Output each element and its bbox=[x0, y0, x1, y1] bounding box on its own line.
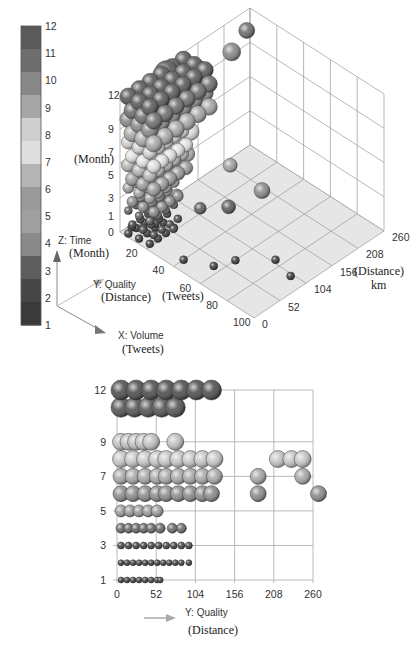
colorbar-tick: 7 bbox=[45, 156, 51, 168]
y-tick-label: 12 bbox=[94, 384, 106, 396]
bubble-shade bbox=[250, 486, 266, 502]
bubble-shade bbox=[231, 256, 239, 264]
bubble-shade bbox=[172, 560, 178, 566]
bubble-shade bbox=[158, 226, 166, 234]
colorbar-segment bbox=[21, 164, 41, 188]
y-tick-label: 104 bbox=[314, 283, 332, 295]
z-tick-label: 5 bbox=[108, 169, 114, 181]
bubble-shade bbox=[151, 505, 163, 517]
bubble-shade bbox=[174, 215, 182, 223]
colorbar-tick: 6 bbox=[45, 183, 51, 195]
bubble-shade bbox=[222, 200, 236, 214]
colorbar-segment bbox=[21, 210, 41, 234]
bubble-shade bbox=[130, 560, 136, 566]
x-tick-label: 100 bbox=[233, 316, 251, 328]
triad-z-name: Z: Time bbox=[58, 235, 92, 246]
bubble-shade bbox=[170, 225, 178, 233]
bubble-shade bbox=[167, 433, 184, 450]
x-axis-bottom-label: (Tweets) bbox=[162, 289, 204, 303]
y-tick-label: 52 bbox=[288, 301, 300, 313]
colorbar-tick: 12 bbox=[45, 20, 57, 32]
3d-bubble-chart: 1297531020406080100052104156208260 bbox=[108, 8, 410, 330]
bubble-shade bbox=[223, 43, 241, 61]
bubble-shade bbox=[148, 207, 159, 218]
bubble-shade bbox=[165, 397, 185, 417]
bubble-shade bbox=[294, 451, 311, 468]
bubble-shade bbox=[154, 560, 160, 566]
x-tick-label: 52 bbox=[150, 588, 162, 600]
bubble-shade bbox=[145, 112, 162, 129]
bubble-shade bbox=[148, 542, 155, 549]
bubble-shade bbox=[170, 542, 177, 549]
triad-x-line bbox=[57, 306, 100, 330]
colorbar-tick: 11 bbox=[45, 47, 56, 59]
z-tick-label: 9 bbox=[108, 123, 114, 135]
y-tick-label: 1 bbox=[100, 574, 106, 586]
bubble-shade bbox=[155, 542, 162, 549]
colorbar-segment bbox=[21, 49, 41, 73]
colorbar-legend bbox=[21, 26, 41, 326]
y-axis-right-unit: km bbox=[371, 278, 387, 292]
colorbar-tick: 5 bbox=[45, 210, 51, 222]
bubble-shade bbox=[143, 433, 160, 450]
x-tick-label: 208 bbox=[265, 588, 283, 600]
colorbar-tick: 8 bbox=[45, 129, 51, 141]
z-tick-label: 12 bbox=[108, 89, 120, 101]
bubble-shade bbox=[272, 256, 280, 264]
x-tick-label: 20 bbox=[126, 247, 138, 259]
bubble-shade bbox=[146, 217, 154, 225]
bubble-shade bbox=[147, 159, 161, 173]
bubble-shade bbox=[160, 560, 166, 566]
colorbar-tick: 9 bbox=[45, 102, 51, 114]
colorbar-tick: 4 bbox=[45, 237, 51, 249]
colorbar-segment bbox=[21, 26, 41, 50]
bubble-shade bbox=[146, 523, 156, 533]
bubble-shade bbox=[254, 183, 270, 199]
bubble-shade bbox=[223, 158, 237, 172]
bubble-shade bbox=[201, 380, 221, 400]
y-tick-label: 3 bbox=[100, 539, 106, 551]
bubble-shade bbox=[118, 577, 124, 583]
z-tick-label: 0 bbox=[108, 226, 114, 238]
colorbar-tick: 1 bbox=[45, 319, 51, 331]
colorbar-tick: 2 bbox=[45, 292, 51, 304]
chart-canvas: 121110987654321 129753102040608010005210… bbox=[0, 0, 413, 652]
triad-y-name: Y: Quality bbox=[93, 279, 136, 290]
z-tick-label: 1 bbox=[108, 210, 114, 222]
y-axis-right-label: (Distance) bbox=[354, 264, 404, 278]
bubble-shade bbox=[142, 560, 148, 566]
bubble-shade bbox=[140, 542, 147, 549]
z-axis-side-label: (Month) bbox=[74, 152, 114, 166]
bubble-shade bbox=[157, 577, 163, 583]
bubble-shade bbox=[135, 212, 143, 220]
bubble-shade bbox=[178, 542, 185, 549]
y-tick-label: 9 bbox=[100, 436, 106, 448]
bubble-shade bbox=[148, 560, 154, 566]
bubble-shade bbox=[142, 577, 148, 583]
colorbar-segment bbox=[21, 302, 41, 326]
bubble-shade bbox=[239, 22, 255, 38]
bubble-shade bbox=[146, 240, 154, 248]
y-tick-label: 0 bbox=[262, 318, 268, 330]
bubble-shade bbox=[206, 451, 223, 468]
colorbar-segment bbox=[21, 118, 41, 142]
colorbar-tick: 10 bbox=[45, 74, 57, 86]
bubble-shade bbox=[167, 523, 177, 533]
wall-gridline bbox=[250, 77, 384, 163]
bubble-shade bbox=[127, 196, 138, 207]
colorbar-tick: 3 bbox=[45, 265, 51, 277]
colorbar-segment bbox=[21, 279, 41, 303]
bubble-shade bbox=[186, 560, 192, 566]
z-tick-label: 3 bbox=[108, 192, 114, 204]
bubble-shade bbox=[124, 207, 132, 215]
bubble-shade bbox=[130, 577, 136, 583]
triad-x-arrow-icon bbox=[95, 325, 106, 334]
axis-triad bbox=[53, 250, 106, 334]
triad-z-arrow-icon bbox=[53, 250, 61, 262]
bubble-shade bbox=[136, 577, 142, 583]
colorbar-segment bbox=[21, 233, 41, 257]
colorbar-segment bbox=[21, 72, 41, 96]
bubble-shade bbox=[124, 229, 132, 237]
bottom-axis-arrow bbox=[144, 614, 176, 622]
bubble-shade bbox=[124, 560, 130, 566]
